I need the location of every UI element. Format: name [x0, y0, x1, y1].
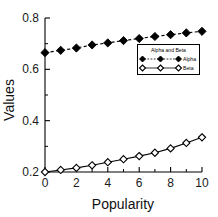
x-tick-label: 6 [136, 176, 143, 190]
data-point-beta [151, 149, 158, 156]
data-point-alpha [182, 29, 190, 37]
data-point-alpha [88, 41, 96, 49]
data-point-alpha [135, 34, 143, 42]
y-tick-label: 0.2 [22, 165, 39, 179]
y-tick-label: 0.6 [22, 62, 39, 76]
data-point-beta [120, 156, 127, 163]
y-tick-label: 0.4 [22, 114, 39, 128]
legend-title: Alpha and Beta [151, 47, 186, 53]
line-chart: 0.20.40.60.80246810 Popularity Values Al… [0, 0, 218, 217]
x-tick-label: 10 [195, 176, 209, 190]
y-tick-label: 0.8 [22, 11, 39, 25]
y-axis-title: Values [1, 79, 17, 121]
data-point-alpha [119, 36, 127, 44]
series-line-beta [45, 137, 202, 172]
data-point-beta [167, 145, 174, 152]
data-point-alpha [72, 44, 80, 52]
x-tick-label: 8 [167, 176, 174, 190]
data-point-beta [89, 162, 96, 169]
legend-label-alpha: Alpha [183, 56, 196, 62]
chart-legend: Alpha and Beta AlphaBeta [138, 45, 200, 75]
x-tick-label: 4 [104, 176, 111, 190]
data-point-alpha [167, 31, 175, 39]
data-point-beta [41, 168, 48, 175]
data-point-alpha [57, 46, 65, 54]
data-point-beta [73, 164, 80, 171]
chart-figure: 0.20.40.60.80246810 Popularity Values Al… [0, 0, 218, 217]
data-point-beta [198, 134, 205, 141]
data-point-beta [136, 152, 143, 159]
x-tick-label: 0 [42, 176, 49, 190]
data-point-alpha [151, 32, 159, 40]
data-point-alpha [104, 39, 112, 47]
x-tick-label: 2 [73, 176, 80, 190]
data-point-beta [104, 159, 111, 166]
legend-label-beta: Beta [183, 65, 194, 71]
data-point-alpha [41, 49, 49, 57]
axis-tick-labels: 0.20.40.60.80246810 [22, 11, 209, 190]
data-point-alpha [198, 27, 206, 35]
x-axis-title: Popularity [92, 196, 154, 212]
data-point-beta [183, 139, 190, 146]
